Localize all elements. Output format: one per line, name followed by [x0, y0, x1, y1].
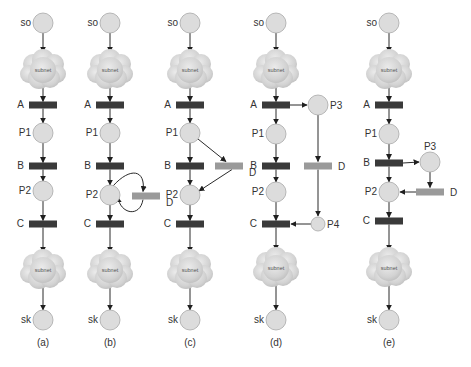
subnet-label: subnet — [35, 67, 52, 73]
transition-label-B: B — [17, 160, 24, 171]
place-label-sk: sk — [88, 314, 99, 325]
transition-label-A: A — [164, 99, 171, 110]
transition-label-C: C — [84, 218, 91, 229]
transition-label-C: C — [17, 218, 24, 229]
place-label-P2: P2 — [86, 189, 99, 200]
place-label-P2: P2 — [166, 189, 179, 200]
transition-A — [176, 102, 204, 109]
transition-label-A: A — [84, 99, 91, 110]
transition-A — [29, 102, 57, 109]
transition-C — [375, 218, 403, 225]
place-sk — [379, 310, 399, 330]
transition-B — [176, 163, 204, 170]
transition-C — [29, 221, 57, 228]
transition-B — [375, 160, 403, 167]
place-sk — [266, 310, 286, 330]
place-label-P2: P2 — [19, 185, 32, 196]
place-so — [33, 13, 53, 33]
place-label-P1: P1 — [252, 128, 265, 139]
transition-D — [215, 163, 243, 170]
transition-D — [132, 193, 160, 200]
place-label-sk: sk — [21, 314, 32, 325]
place-P4 — [311, 217, 325, 231]
place-P1 — [379, 124, 399, 144]
place-so — [266, 13, 286, 33]
transition-B — [262, 163, 290, 170]
transition-B — [29, 163, 57, 170]
subnet-label: subnet — [268, 67, 285, 73]
panel-caption-c: (c) — [184, 337, 196, 348]
arc-arrow — [403, 162, 419, 163]
transition-D — [304, 163, 332, 170]
transition-C — [176, 221, 204, 228]
place-sk — [100, 310, 120, 330]
transition-label-C: C — [164, 218, 171, 229]
place-label-so: so — [20, 17, 31, 28]
subnet-label: subnet — [182, 67, 199, 73]
place-so — [100, 13, 120, 33]
transition-label-A: A — [17, 99, 24, 110]
place-label-P2: P2 — [365, 186, 378, 197]
transition-D — [416, 189, 444, 196]
place-P1 — [33, 123, 53, 143]
place-P1 — [100, 123, 120, 143]
place-P1 — [180, 123, 200, 143]
place-label-P3: P3 — [424, 141, 437, 152]
subnet-label: subnet — [102, 67, 119, 73]
transition-label-B: B — [250, 160, 257, 171]
place-P2 — [100, 185, 120, 205]
transition-label-C: C — [363, 215, 370, 226]
panel-caption-e: (e) — [383, 337, 395, 348]
transition-label-B: B — [164, 160, 171, 171]
place-sk — [33, 310, 53, 330]
place-P2 — [180, 185, 200, 205]
place-label-sk: sk — [254, 314, 265, 325]
place-label-P1: P1 — [19, 127, 32, 138]
transition-label-C: C — [250, 218, 257, 229]
place-sk — [180, 310, 200, 330]
subnet-label: subnet — [35, 267, 52, 273]
transition-label-A: A — [250, 99, 257, 110]
nodes-layer — [20, 13, 444, 330]
arc-arrow — [199, 170, 232, 192]
transition-label-B: B — [363, 157, 370, 168]
transition-label-D: D — [450, 187, 457, 198]
place-label-P2: P2 — [252, 186, 265, 197]
place-P1 — [266, 124, 286, 144]
place-P2 — [266, 182, 286, 202]
place-P3 — [308, 95, 328, 115]
transition-A — [375, 102, 403, 109]
panel-caption-d: (d) — [270, 337, 282, 348]
place-label-so: so — [87, 17, 98, 28]
petri-net-diagram: sosubnetAP1BP2Csubnetsk(a)sosubnetAP1BP2… — [0, 0, 471, 367]
place-label-P1: P1 — [166, 127, 179, 138]
place-label-P1: P1 — [365, 128, 378, 139]
place-label-so: so — [253, 17, 264, 28]
place-P3 — [420, 152, 440, 172]
transition-label-D: D — [338, 161, 345, 172]
panel-caption-a: (a) — [37, 337, 49, 348]
transition-A — [262, 102, 290, 109]
subnet-label: subnet — [102, 267, 119, 273]
place-label-P4: P4 — [327, 219, 340, 230]
place-label-so: so — [167, 17, 178, 28]
subnet-label: subnet — [182, 267, 199, 273]
place-label-so: so — [366, 17, 377, 28]
transition-A — [96, 102, 124, 109]
place-label-sk: sk — [168, 314, 179, 325]
place-P2 — [33, 181, 53, 201]
transition-B — [96, 163, 124, 170]
arc-arrow — [198, 139, 226, 162]
subnet-label: subnet — [268, 265, 285, 271]
transition-label-A: A — [363, 99, 370, 110]
place-label-sk: sk — [367, 314, 378, 325]
place-P2 — [379, 182, 399, 202]
place-label-P1: P1 — [86, 127, 99, 138]
transition-C — [262, 221, 290, 228]
transition-C — [96, 221, 124, 228]
panel-caption-b: (b) — [104, 337, 116, 348]
place-label-P3: P3 — [330, 100, 343, 111]
subnet-label: subnet — [381, 265, 398, 271]
subnet-label: subnet — [381, 67, 398, 73]
place-so — [379, 13, 399, 33]
